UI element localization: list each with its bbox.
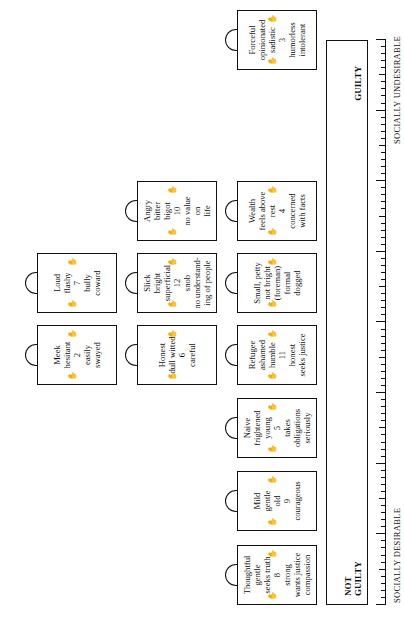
juror-card-11: ✋ ✋ Refugee ashamed humble 11 honest see… (237, 325, 317, 385)
card-text: Honest dull witted 6 careful (157, 334, 197, 377)
ruler-tick (381, 456, 386, 457)
hand-icon: ✋ (268, 299, 277, 309)
ruler-tick (376, 463, 386, 464)
ruler-tick (381, 159, 386, 160)
card-text: Refugee ashamed humble 11 honest seeks j… (247, 330, 307, 379)
juror-diagram: ✋ ✋ Thoughtful gentle seeks truth 8 stro… (0, 0, 404, 633)
ruler-tick (381, 399, 386, 400)
ruler-tick (381, 293, 386, 294)
ruler-tick (381, 477, 386, 478)
ruler-tick (381, 562, 386, 563)
ruler-tick (381, 484, 386, 485)
ruler-tick (381, 117, 386, 118)
ruler-tick (381, 371, 386, 372)
ruler-tick (381, 329, 386, 330)
ruler-tick (381, 385, 386, 386)
socially-undesirable-label: SOCIALLY UNDESIRABLE (392, 36, 402, 144)
card-text: Thoughtful gentle seeks truth 8 strong w… (242, 550, 312, 601)
card-text: Angry bitter bigot 10 no value on life (142, 193, 212, 228)
ruler-tick (381, 166, 386, 167)
ruler-tick (376, 533, 386, 534)
hand-icon: ✋ (268, 591, 277, 601)
ruler-tick (381, 265, 386, 266)
ruler-tick (376, 110, 386, 111)
ruler-tick (381, 336, 386, 337)
hand-icon: ✋ (168, 227, 177, 237)
ruler-tick (381, 505, 386, 506)
hand-icon: ✋ (168, 329, 177, 339)
handle-icon (125, 272, 138, 294)
handle-icon (225, 272, 238, 294)
ruler-tick (381, 406, 386, 407)
ruler-tick (381, 103, 386, 104)
handle-icon (125, 344, 138, 366)
ruler-tick (379, 74, 386, 75)
ruler-tick (381, 555, 386, 556)
ruler-tick (381, 470, 386, 471)
ruler-tick (381, 314, 386, 315)
ruler-tick (381, 187, 386, 188)
hand-icon: ✋ (268, 549, 277, 559)
handle-icon (125, 200, 138, 222)
ruler-tick (381, 364, 386, 365)
juror-card-12: ✋ ✋ Slick bright superficial 12 snob no … (137, 253, 217, 313)
ruler-tick (381, 67, 386, 68)
juror-card-9: ✋ ✋ Mild gentle old 9 courageous (237, 471, 317, 531)
ruler-tick (381, 343, 386, 344)
ruler-tick (379, 286, 386, 287)
juror-card-5: ✋ ✋ Naive frightened young 5 takes oblig… (237, 398, 317, 458)
ruler-tick (376, 604, 386, 605)
ruler-tick (381, 138, 386, 139)
scale-ruler (376, 40, 386, 605)
ruler-tick (376, 392, 386, 393)
ruler-tick (381, 590, 386, 591)
juror-card-1: ✋ ✋ Small, petty not bright (foreman) fo… (237, 253, 317, 313)
card-text: Slick bright superficial 12 snob no unde… (142, 254, 212, 311)
ruler-tick (381, 230, 386, 231)
ruler-tick (379, 498, 386, 499)
hand-icon: ✋ (268, 257, 277, 267)
card-text: Naive frightened young 5 takes obligatio… (242, 406, 312, 450)
juror-card-3: ✋ ✋ Forceful opinionated sadistic 3 humo… (237, 10, 317, 70)
ruler-tick (381, 519, 386, 520)
ruler-tick (381, 512, 386, 513)
ruler-tick (379, 216, 386, 217)
handle-icon (225, 344, 238, 366)
ruler-tick (381, 124, 386, 125)
ruler-tick (381, 60, 386, 61)
hand-icon: ✋ (268, 185, 277, 195)
hand-icon: ✋ (268, 371, 277, 381)
handle-icon (25, 344, 38, 366)
ruler-tick (381, 237, 386, 238)
juror-card-10: ✋ ✋ Angry bitter bigot 10 no value on li… (137, 181, 217, 241)
socially-desirable-label: SOCIALLY DESIRABLE (392, 508, 402, 603)
hand-icon: ✋ (268, 475, 277, 485)
hand-icon: ✋ (268, 444, 277, 454)
handle-icon (225, 417, 238, 439)
hand-icon: ✋ (168, 371, 177, 381)
ruler-tick (376, 180, 386, 181)
ruler-tick (381, 548, 386, 549)
ruler-tick (381, 201, 386, 202)
card-text: Mild gentle old 9 courageous (252, 478, 302, 523)
hand-icon: ✋ (268, 329, 277, 339)
hand-icon: ✋ (268, 14, 277, 24)
not-guilty-label: NOT GUILTY (343, 561, 363, 596)
ruler-tick (381, 279, 386, 280)
juror-card-2: ✋ ✋ Meek hesitant 2 easily swayed (37, 325, 117, 385)
handle-icon (225, 200, 238, 222)
hand-icon: ✋ (68, 329, 77, 339)
juror-card-7: ✋ ✋ Loud flashy 7 bully coward (37, 253, 117, 313)
hand-icon: ✋ (68, 371, 77, 381)
juror-card-8: ✋ ✋ Thoughtful gentle seeks truth 8 stro… (237, 545, 317, 605)
card-text: Loud flashy 7 bully coward (52, 267, 102, 298)
ruler-tick (381, 540, 386, 541)
hand-icon: ✋ (268, 402, 277, 412)
ruler-tick (381, 350, 386, 351)
hand-icon: ✋ (168, 257, 177, 267)
ruler-tick (381, 442, 386, 443)
ruler-tick (381, 307, 386, 308)
ruler-baseline (385, 40, 386, 605)
ruler-tick (376, 39, 386, 40)
juror-card-6: ✋ ✋ Honest dull witted 6 careful (137, 325, 217, 385)
